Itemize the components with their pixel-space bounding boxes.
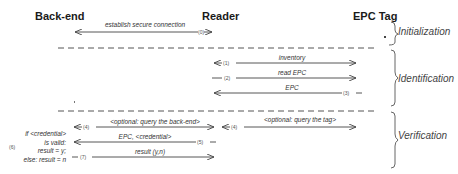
message-1-label: inventory xyxy=(262,54,322,61)
message-4b-step: (4) xyxy=(231,124,237,130)
brace-verification xyxy=(391,112,398,168)
message-7-step: (7) xyxy=(80,154,86,160)
message-5-label: EPC, <credential> xyxy=(105,133,185,140)
brace-initialization xyxy=(389,22,398,45)
message-3-label: EPC xyxy=(262,84,322,91)
message-4b-label: <optional: query the tag> xyxy=(250,116,350,123)
message-0-step: (0) xyxy=(198,29,204,35)
backend-note-line-3: result = y; xyxy=(12,147,66,156)
backend-note: if <credential> is valid: result = y; el… xyxy=(12,130,66,164)
phase-identification: Identification xyxy=(398,73,454,84)
message-3-step: (3) xyxy=(343,90,349,96)
backend-note-line-4: else: result = n xyxy=(12,156,66,165)
brace-identification xyxy=(391,50,398,106)
backend-note-line-2: is valid: xyxy=(12,139,66,148)
message-7-label: result (y,n) xyxy=(115,148,185,155)
phase-initialization: Initialization xyxy=(398,26,450,37)
message-0-label: establish secure connection xyxy=(100,21,190,28)
backend-note-line-1: if <credential> xyxy=(12,130,66,139)
sequence-diagram-graphics xyxy=(0,0,458,174)
message-4a-label: <optional: query the back-end> xyxy=(100,118,210,125)
phase-verification: Verification xyxy=(398,130,447,141)
message-4a-step: (4) xyxy=(83,124,89,130)
message-2-step: (2) xyxy=(224,75,230,81)
message-1-step: (1) xyxy=(223,60,229,66)
message-2-label: read EPC xyxy=(262,69,322,76)
message-5-step: (5) xyxy=(197,139,203,145)
